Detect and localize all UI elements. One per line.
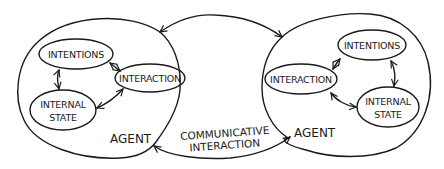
left-intentions-interaction-arrow <box>110 63 120 71</box>
agent-communication-diagram: INTENTIONS INTERACTION INTERNAL STATE AG… <box>0 0 444 169</box>
agent-left: INTENTIONS INTERACTION INTERNAL STATE AG… <box>18 19 185 159</box>
top-communication-arrow <box>160 15 282 37</box>
left-intentions-state-arrow <box>57 70 59 89</box>
right-intentions-label: INTENTIONS <box>344 40 400 51</box>
right-intentions-interaction-arrow <box>333 59 340 69</box>
left-interaction-label: INTERACTION <box>119 73 181 84</box>
right-internal-state-label-2: STATE <box>374 109 402 120</box>
right-interaction-state-arrow <box>331 93 356 107</box>
left-internal-state-label-2: STATE <box>49 112 77 123</box>
agent-right: INTENTIONS INTERACTION INTERNAL STATE AG… <box>262 14 430 157</box>
left-interaction-state-arrow <box>97 89 123 108</box>
left-agent-label: AGENT <box>110 132 152 146</box>
left-internal-state-label-1: INTERNAL <box>40 99 87 110</box>
agent-left-boundary <box>18 19 180 159</box>
right-intentions-state-arrow <box>391 61 395 86</box>
left-internal-state-node <box>30 90 96 130</box>
left-intentions-label: INTENTIONS <box>48 49 104 60</box>
right-agent-label: AGENT <box>294 126 336 140</box>
right-interaction-label: INTERACTION <box>270 74 332 85</box>
right-internal-state-node <box>357 87 419 127</box>
right-internal-state-label-1: INTERNAL <box>365 96 412 107</box>
